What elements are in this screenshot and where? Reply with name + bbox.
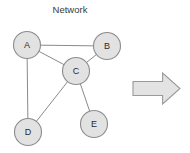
network-diagram-svg: Network ABCDE [0,0,190,153]
node-label-b: B [104,41,110,51]
node-label-a: A [24,40,30,50]
node-label-c: C [73,66,80,76]
network-diagram-canvas: Network ABCDE [0,0,190,153]
node-label-e: E [91,119,97,129]
node-a[interactable]: A [14,32,41,59]
node-e[interactable]: E [81,111,108,138]
node-c[interactable]: C [63,58,90,85]
page-title: Network [53,4,88,15]
node-d[interactable]: D [15,119,42,146]
node-b[interactable]: B [94,33,121,60]
node-label-d: D [25,127,32,137]
